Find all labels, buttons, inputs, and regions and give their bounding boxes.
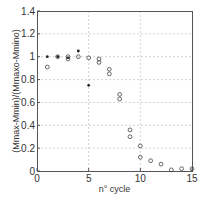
- data-points: [45, 50, 193, 172]
- y-axis-label: (Mmax-Mmin)/(Mmaxo-Mmino): [11, 29, 21, 153]
- data-point-dot: [56, 55, 59, 58]
- y-tick-label: 1.4: [21, 6, 35, 17]
- y-tick-label: 1: [29, 51, 35, 62]
- x-axis-label: n° cycle: [99, 184, 131, 194]
- data-point-dot: [77, 50, 80, 53]
- x-tick-label: 15: [186, 173, 198, 184]
- data-point-circle: [159, 162, 163, 166]
- data-point-circle: [118, 97, 122, 101]
- scatter-chart: 00.20.40.60.811.21.4 051015 n° cycle (Mm…: [0, 0, 205, 199]
- data-point-circle: [45, 65, 49, 69]
- y-tick-label: 1.2: [21, 28, 35, 39]
- y-tick-label: 0.2: [21, 143, 35, 154]
- data-point-dot: [46, 55, 49, 58]
- x-tick-label: 10: [135, 173, 147, 184]
- data-point-circle: [128, 128, 132, 132]
- y-tick-label: 0.6: [21, 97, 35, 108]
- plot-area: [38, 12, 193, 172]
- data-point-circle: [149, 159, 153, 163]
- data-point-circle: [107, 67, 111, 71]
- y-tick-label: 0.4: [21, 120, 35, 131]
- y-tick-label: 0.8: [21, 74, 35, 85]
- data-point-circle: [180, 167, 184, 171]
- data-point-circle: [128, 135, 132, 139]
- grid-lines: [37, 11, 192, 171]
- x-tick-label: 5: [86, 173, 92, 184]
- x-tick-label: 0: [34, 173, 40, 184]
- data-point-circle: [118, 93, 122, 97]
- data-point-dot: [87, 84, 90, 87]
- data-point-circle: [107, 72, 111, 76]
